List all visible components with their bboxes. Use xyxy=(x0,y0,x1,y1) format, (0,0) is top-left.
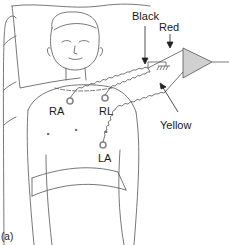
panel-label: (a) xyxy=(1,232,13,242)
electrode-ra xyxy=(67,98,73,104)
label-ra: RA xyxy=(49,106,64,117)
amplifier-icon xyxy=(183,48,229,78)
pillow xyxy=(12,4,150,88)
wire-yellow xyxy=(103,72,183,142)
bed-frame xyxy=(3,16,16,245)
electrode-la xyxy=(100,142,106,148)
ecg-diagram: Black Red Yellow RA RL LA (a) xyxy=(0,0,229,245)
ground-icon xyxy=(157,62,170,70)
electrode-rl xyxy=(102,95,108,101)
electrodes xyxy=(67,95,108,148)
patient-head xyxy=(47,12,102,80)
arrow-yellow xyxy=(162,86,178,112)
ecg-illustration xyxy=(0,0,229,245)
label-red: Red xyxy=(159,22,179,33)
label-arrows xyxy=(142,26,178,112)
label-rl: RL xyxy=(99,106,113,117)
wire-black xyxy=(105,62,162,95)
label-yellow: Yellow xyxy=(160,120,191,131)
label-la: LA xyxy=(98,153,111,164)
label-black: Black xyxy=(132,11,159,22)
patient-torso xyxy=(27,85,139,245)
